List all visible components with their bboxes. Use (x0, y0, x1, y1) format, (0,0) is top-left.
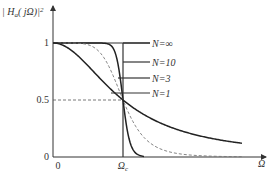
legend-label: N=1 (151, 88, 170, 99)
x-axis-label: Ω (258, 158, 265, 169)
legend: N=∞N=10N=3N=1 (111, 38, 175, 99)
y-tick-label: 1 (44, 37, 49, 48)
butterworth-magnitude-chart: 00.510Ωc N=∞N=10N=3N=1 | Ha( jΩ)|2 Ω (0, 0, 272, 173)
x-tick-label: Ωc (118, 160, 129, 173)
y-axis-label: | Ha( jΩ)|2 (2, 6, 44, 19)
legend-label: N=10 (151, 57, 175, 68)
y-tick-label: 0 (44, 151, 49, 162)
legend-label: N=∞ (151, 38, 173, 49)
y-tick-label: 0.5 (37, 94, 50, 105)
curves (53, 43, 242, 157)
x-tick-label: 0 (56, 160, 61, 171)
reference-lines (53, 43, 123, 157)
legend-label: N=3 (151, 73, 170, 84)
